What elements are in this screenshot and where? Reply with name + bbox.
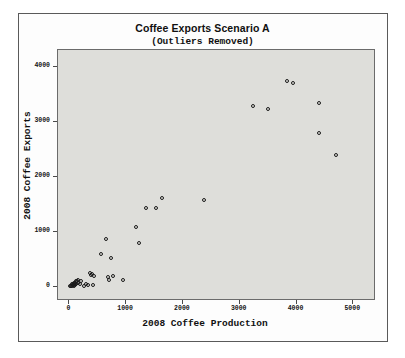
x-axis-label: 2008 Coffee Production	[30, 318, 380, 329]
y-axis-tick-label: 1000	[18, 227, 50, 234]
data-point	[285, 79, 289, 83]
x-axis-tick-label: 5000	[335, 305, 369, 312]
figure-container: Coffee Exports Scenario A (Outliers Remo…	[0, 0, 405, 358]
data-point	[137, 241, 141, 245]
plot-area	[57, 49, 375, 300]
x-axis-tick-label: 1000	[108, 305, 142, 312]
data-point	[121, 278, 125, 282]
data-point	[134, 225, 138, 229]
y-axis-tick-label: 3000	[18, 117, 50, 124]
data-point	[111, 274, 115, 278]
data-point	[317, 101, 321, 105]
data-point	[99, 252, 103, 256]
x-axis-tick	[182, 300, 183, 304]
data-point	[107, 278, 111, 282]
x-axis-tick-label: 4000	[279, 305, 313, 312]
data-point	[92, 274, 96, 278]
data-point	[266, 107, 270, 111]
data-point	[334, 153, 338, 157]
x-axis-tick-label: 0	[51, 305, 85, 312]
data-point	[317, 131, 321, 135]
data-point	[144, 206, 148, 210]
x-axis-tick	[239, 300, 240, 304]
x-axis-tick	[352, 300, 353, 304]
data-point	[86, 283, 90, 287]
data-point	[202, 198, 206, 202]
data-point	[160, 196, 164, 200]
data-point	[104, 237, 108, 241]
x-axis-tick	[125, 300, 126, 304]
x-axis-tick	[68, 300, 69, 304]
y-axis-tick-label: 2000	[18, 172, 50, 179]
x-axis-tick-label: 2000	[165, 305, 199, 312]
x-axis-tick	[296, 300, 297, 304]
chart-title: Coffee Exports Scenario A	[0, 22, 405, 34]
data-point	[154, 206, 158, 210]
x-axis-tick-label: 3000	[222, 305, 256, 312]
data-point	[91, 283, 95, 287]
data-point	[79, 279, 83, 283]
data-point	[251, 104, 255, 108]
y-axis-tick-label: 4000	[18, 62, 50, 69]
y-axis-label: 2008 Coffee Exports	[22, 66, 33, 266]
data-point	[291, 81, 295, 85]
y-axis-tick-label: 0	[18, 282, 50, 289]
data-point	[109, 256, 113, 260]
chart-subtitle: (Outliers Removed)	[0, 36, 405, 47]
